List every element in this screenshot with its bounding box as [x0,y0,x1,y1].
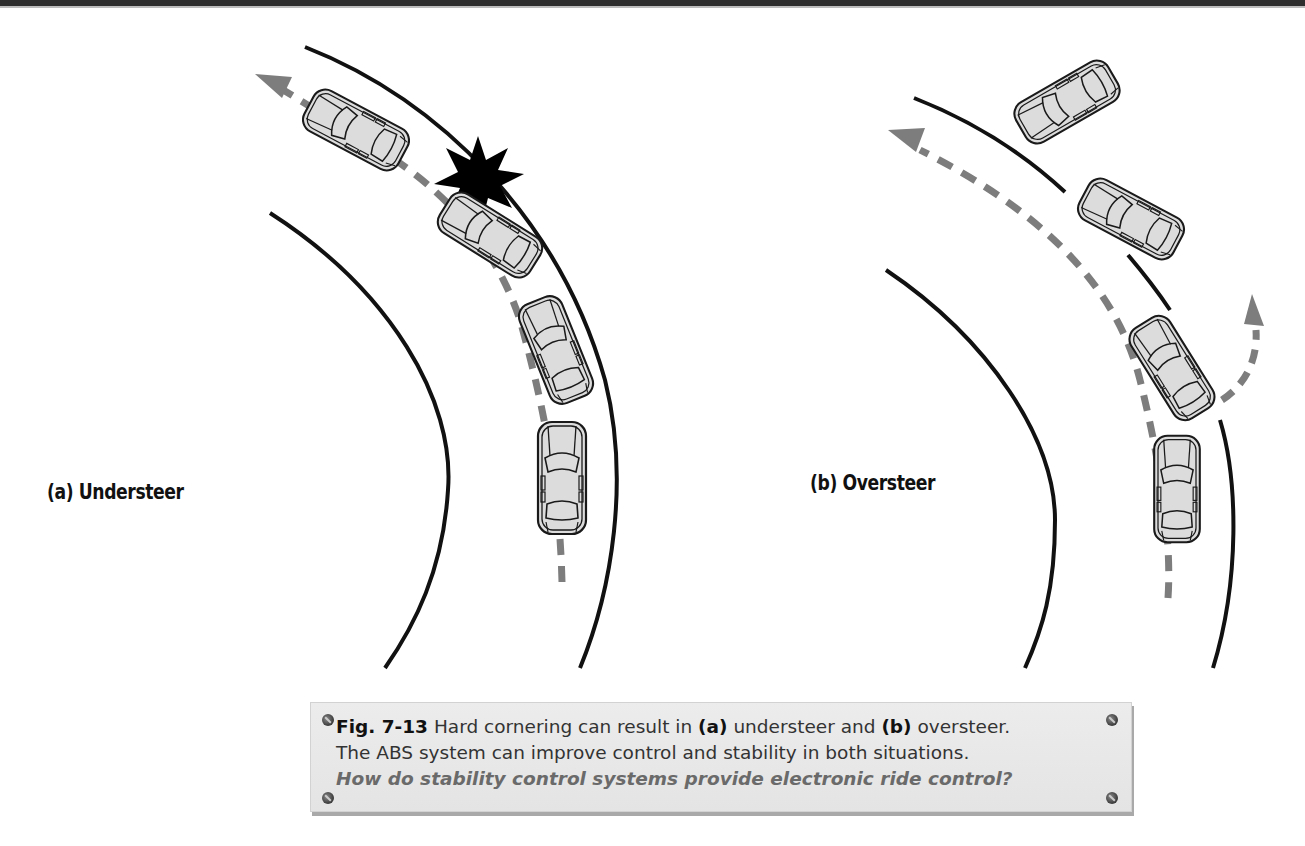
review-question: How do stability control systems provide… [336,766,1116,792]
panel-b-label: (b) Oversteer [810,471,935,495]
caption-ref-a: (a) [698,716,727,737]
caption-text-part: understeer and [728,716,882,737]
caption-text-part: oversteer. [912,716,1011,737]
figure-caption-box: Fig. 7-13 Hard cornering can result in (… [310,702,1132,812]
car-b-2 [1124,311,1219,425]
car-a-3 [433,187,547,282]
path-arrowhead-b-up [1244,294,1264,326]
caption-text-part: Hard cornering can result in [428,716,698,737]
road-inner-edge-a [270,213,449,668]
car-b-1 [1154,436,1200,542]
car-a-1 [538,422,586,534]
screw-icon [322,792,334,804]
caption-text: Fig. 7-13 Hard cornering can result in (… [336,714,1116,792]
vehicle-path-a [270,82,562,582]
spin-path-b [1222,330,1256,400]
car-a-4 [298,85,413,175]
caption-line-2: The ABS system can improve control and s… [336,742,969,763]
panel-a-understeer [255,47,617,668]
screw-icon [1106,792,1118,804]
car-b-3 [1073,174,1188,264]
panel-a-label: (a) Understeer [47,480,184,504]
caption-ref-b: (b) [881,716,911,737]
panel-b-oversteer [886,56,1264,668]
car-b-4 [1010,56,1125,149]
car-a-2 [515,292,597,408]
path-arrowhead-b-left [888,128,925,152]
road-inner-edge-b [886,270,1055,668]
figure-number: Fig. 7-13 [336,716,428,737]
screw-icon [322,714,334,726]
road-outer-edge-b-seg2 [1128,255,1170,310]
road-outer-edge-b-seg3 [1213,420,1233,668]
